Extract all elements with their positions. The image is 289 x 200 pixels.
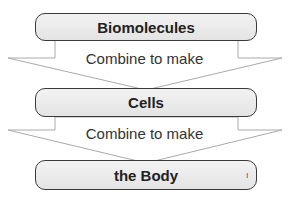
arrow-1-label: Combine to make — [0, 50, 289, 67]
cursor-mark: ı — [246, 170, 249, 180]
body-label: the Body — [114, 167, 178, 184]
arrow-2-label: Combine to make — [0, 125, 289, 142]
body-box: the Body — [35, 160, 257, 190]
biomolecules-box: Biomolecules — [35, 13, 257, 41]
biomolecules-label: Biomolecules — [97, 19, 195, 36]
cells-box: Cells — [35, 88, 257, 117]
cells-label: Cells — [128, 94, 164, 111]
